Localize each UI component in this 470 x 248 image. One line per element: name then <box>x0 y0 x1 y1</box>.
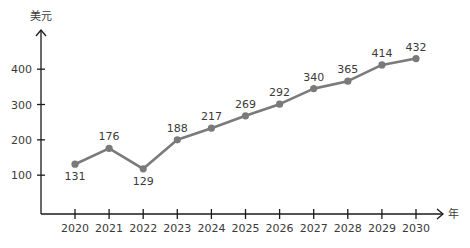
data-label: 432 <box>406 41 427 54</box>
x-tick-label: 2020 <box>61 222 89 235</box>
x-tick-label: 2024 <box>197 222 225 235</box>
data-point <box>140 165 147 172</box>
y-tick-label: 100 <box>11 169 32 182</box>
data-point <box>276 101 283 108</box>
data-point <box>106 145 113 152</box>
data-label: 129 <box>133 175 154 188</box>
data-point <box>412 55 419 62</box>
x-tick-label: 2025 <box>232 222 260 235</box>
data-label: 292 <box>269 86 290 99</box>
data-label: 131 <box>65 170 86 183</box>
y-ticks: 100200300400 <box>11 63 45 182</box>
data-label: 414 <box>371 47 392 60</box>
data-point <box>174 136 181 143</box>
x-tick-label: 2029 <box>368 222 396 235</box>
data-point <box>242 112 249 119</box>
data-label: 188 <box>167 122 188 135</box>
data-point <box>208 125 215 132</box>
data-label: 176 <box>99 130 120 143</box>
y-tick-label: 400 <box>11 63 32 76</box>
x-tick-label: 2021 <box>95 222 123 235</box>
x-tick-label: 2030 <box>402 222 430 235</box>
data-label: 365 <box>337 63 358 76</box>
y-tick-label: 200 <box>11 134 32 147</box>
x-tick-label: 2027 <box>300 222 328 235</box>
data-point <box>344 78 351 85</box>
data-label: 217 <box>201 110 222 123</box>
x-tick-label: 2026 <box>266 222 294 235</box>
data-series: 131176129188217269292340365414432 <box>65 41 427 188</box>
data-point <box>310 85 317 92</box>
x-ticks: 2020202120222023202420252026202720282029… <box>61 209 430 235</box>
y-axis-unit: 美元 <box>30 10 52 23</box>
y-tick-label: 300 <box>11 99 32 112</box>
y-axis: 美元 <box>30 10 52 214</box>
data-point <box>71 161 78 168</box>
line-chart: 美元 100200300400 年 2020202120222023202420… <box>0 0 470 248</box>
x-tick-label: 2028 <box>334 222 362 235</box>
data-label: 269 <box>235 98 256 111</box>
x-tick-label: 2023 <box>163 222 191 235</box>
x-tick-label: 2022 <box>129 222 157 235</box>
data-label: 340 <box>303 71 324 84</box>
x-axis: 年 <box>41 207 459 221</box>
data-point <box>378 61 385 68</box>
x-axis-unit: 年 <box>448 207 459 221</box>
